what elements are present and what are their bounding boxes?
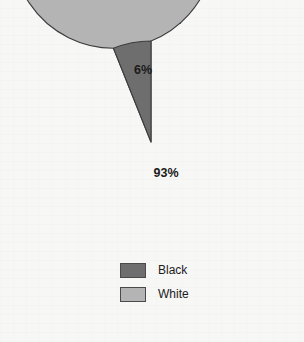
legend-swatch-white-icon	[120, 287, 146, 302]
legend-label-white: White	[158, 287, 189, 302]
legend-item-white[interactable]: White	[120, 287, 189, 302]
chart-figure: 1865–1877 6% 93% Black White	[0, 0, 304, 342]
pie-slice-black[interactable]	[113, 41, 151, 142]
pie-slice-label-black: 6%	[134, 63, 152, 77]
legend: Black White	[120, 263, 189, 302]
pie-slice-white[interactable]	[12, 0, 214, 142]
legend-label-black: Black	[158, 263, 187, 278]
legend-swatch-black-icon	[120, 263, 146, 278]
pie-slice-label-white: 93%	[153, 166, 178, 180]
legend-item-black[interactable]: Black	[120, 263, 189, 278]
